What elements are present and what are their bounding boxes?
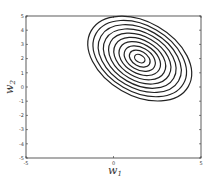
plot-frame (26, 16, 201, 158)
x-axis-label: w1 (108, 164, 122, 178)
y-tick-label: 0 (21, 84, 24, 90)
y-tick-label: -3 (19, 126, 24, 132)
contour-ellipse (73, 0, 207, 118)
contour-ellipse (126, 47, 153, 71)
y-tick-label: 2 (21, 55, 24, 61)
y-tick-label: 1 (21, 70, 24, 76)
y-tick-label: 5 (21, 13, 24, 19)
contour-ellipse (80, 5, 200, 113)
contour-ellipse (113, 35, 166, 83)
y-tick-label: 3 (21, 41, 24, 47)
y-tick-label: 4 (21, 27, 24, 33)
contour-lines (73, 0, 207, 118)
contour-ellipse (133, 53, 146, 65)
contour-plot: 543210-1-2-3-4-5 -505 w1 w2 (0, 0, 210, 182)
x-tick-label: 5 (199, 160, 202, 166)
y-tick-label: -1 (19, 98, 24, 104)
x-tick-label: -5 (24, 160, 29, 166)
y-tick-label: -2 (19, 112, 24, 118)
y-tick-label: -4 (19, 141, 24, 147)
contour-ellipse (106, 29, 173, 89)
y-axis-label: w2 (3, 80, 17, 94)
contour-ellipse (86, 11, 193, 107)
